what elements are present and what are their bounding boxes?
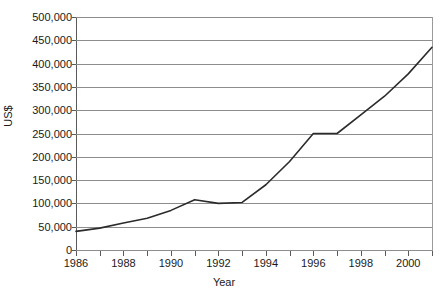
data-series-layer	[0, 0, 448, 300]
x-axis-title: Year	[0, 276, 448, 288]
series-line-us-dollars	[76, 47, 432, 231]
line-chart: US$ 050,000100,000150,000200,000250,0003…	[0, 0, 448, 300]
